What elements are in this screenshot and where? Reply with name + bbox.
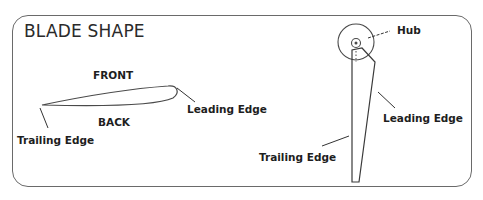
airfoil-shape	[42, 86, 177, 106]
blade-trailing-edge-leader	[322, 136, 349, 146]
blade-leading-edge-label: Leading Edge	[383, 112, 463, 124]
airfoil-leading-edge-label: Leading Edge	[187, 103, 267, 115]
front-label: FRONT	[93, 69, 133, 81]
hub-label: Hub	[397, 24, 421, 36]
blade-leading-edge-leader	[378, 92, 395, 108]
blade-trailing-edge-label: Trailing Edge	[259, 151, 336, 163]
blade-planform	[352, 48, 375, 182]
airfoil-trailing-edge-leader	[40, 108, 48, 128]
hub-shape	[338, 24, 374, 62]
airfoil-leading-edge-leader	[177, 88, 195, 102]
airfoil-trailing-edge-label: Trailing Edge	[17, 134, 94, 146]
back-label: BACK	[98, 116, 130, 128]
